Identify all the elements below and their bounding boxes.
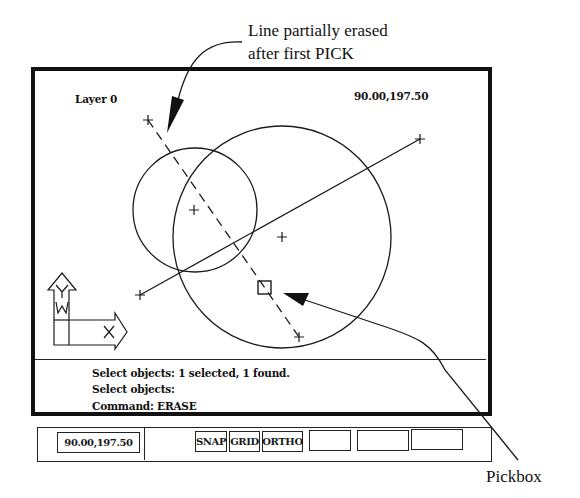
snap-toggle-button[interactable]: SNAP xyxy=(195,431,227,452)
status-bar-divider xyxy=(144,428,145,460)
status-slot-2[interactable] xyxy=(357,430,409,451)
plus-marker-icon xyxy=(135,290,145,300)
ucs-icon xyxy=(48,273,127,349)
status-slot-3[interactable] xyxy=(411,429,463,450)
plus-marker-icon xyxy=(277,232,287,242)
ortho-toggle-button[interactable]: ORTHO xyxy=(262,431,303,452)
plus-marker-icon xyxy=(189,205,199,215)
solid-line[interactable] xyxy=(140,139,420,295)
status-coordinates-value: 90.00,197.50 xyxy=(64,437,132,448)
status-coordinates: 90.00,197.50 xyxy=(57,432,140,453)
callout-arrow-erased-line xyxy=(167,42,242,133)
pickbox-label: Pickbox xyxy=(486,467,542,487)
plus-marker-icon xyxy=(143,115,153,125)
grid-toggle-button[interactable]: GRID xyxy=(229,431,260,452)
snap-label: SNAP xyxy=(196,436,226,447)
command-line-3: Command: ERASE xyxy=(92,400,197,412)
drawing-canvas xyxy=(0,0,580,498)
point-markers xyxy=(135,115,425,342)
command-line-1: Select objects: 1 selected, 1 found. xyxy=(92,367,290,379)
pickbox xyxy=(258,281,271,294)
command-line-2: Select objects: xyxy=(92,383,175,395)
ortho-label: ORTHO xyxy=(262,436,302,447)
plus-marker-icon xyxy=(415,134,425,144)
plus-marker-icon xyxy=(294,332,304,342)
status-slot-1[interactable] xyxy=(309,430,351,451)
grid-label: GRID xyxy=(230,436,259,447)
